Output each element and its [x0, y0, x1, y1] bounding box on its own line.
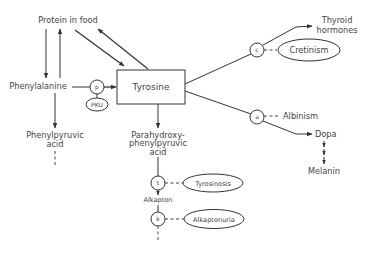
edge-tyrosine-to-enzyme-c: [185, 54, 251, 84]
node-protein-in-food: Protein in food: [38, 15, 97, 25]
disorder-tyrosinosis-label: Tyrosinosis: [194, 180, 231, 188]
node-melanin: Melanin: [308, 166, 340, 176]
disorder-cretinism-label: Cretinism: [289, 45, 328, 55]
node-phenylalanine: Phenylalanine: [9, 81, 66, 91]
enzyme-k-label: k: [156, 215, 160, 222]
node-tyrosine: Tyrosine: [132, 82, 170, 92]
disorder-albinism-label: Albinism: [283, 111, 318, 121]
node-alkapton: Alkapton: [143, 196, 172, 204]
disorder-alkaptonuria-label: Alkaptonuria: [193, 216, 235, 224]
disorder-pku-label: PKU: [91, 101, 103, 108]
node-phenylpyruvic-acid-line2: acid: [47, 139, 64, 149]
edge-tyrosine-to-enzyme-a: [185, 91, 251, 114]
node-thyroid-hormones-line2: hormones: [317, 25, 358, 35]
arrow-protein-to-tyrosine: [75, 30, 124, 66]
enzyme-p-label: p: [95, 83, 99, 91]
node-thyroid-hormones-line1: Thyroid: [321, 15, 353, 25]
node-parahydroxyphenylpyruvic-line3: acid: [150, 147, 167, 157]
node-dopa: Dopa: [315, 129, 337, 139]
enzyme-a-label: a: [255, 113, 259, 120]
arrow-enzyme-a-to-dopa: [263, 121, 312, 134]
enzyme-c-label: c: [255, 46, 258, 53]
arrow-tyrosine-to-protein: [98, 29, 148, 69]
phenylalanine-tyrosine-pathway-diagram: Protein in food Phenylalanine p PKU Phen…: [0, 0, 371, 255]
